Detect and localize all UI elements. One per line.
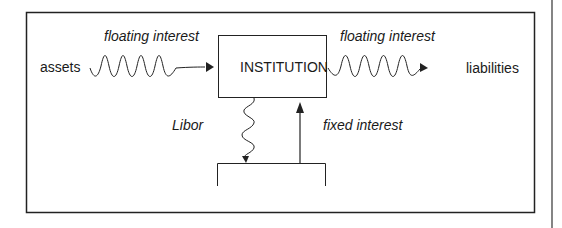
liabilities-arrowhead-icon <box>420 63 428 72</box>
assets-label: assets <box>40 59 80 75</box>
counterparty-box <box>218 164 326 187</box>
libor-arrowhead-icon <box>242 156 249 163</box>
libor-label: Libor <box>172 117 203 133</box>
libor-wave <box>242 98 254 158</box>
assets-arrowhead-icon <box>206 62 214 72</box>
outer-frame <box>27 13 535 213</box>
fixed-interest-label: fixed interest <box>323 117 402 133</box>
diagram-canvas <box>0 0 562 228</box>
assets-wave <box>90 56 205 77</box>
left-floating-interest-label: floating interest <box>104 28 199 44</box>
liabilities-wave <box>328 56 420 77</box>
institution-label: INSTITUTION <box>240 59 328 75</box>
right-floating-interest-label: floating interest <box>340 28 435 44</box>
fixed-interest-arrowhead-icon <box>296 102 304 113</box>
liabilities-label: liabilities <box>466 60 519 76</box>
